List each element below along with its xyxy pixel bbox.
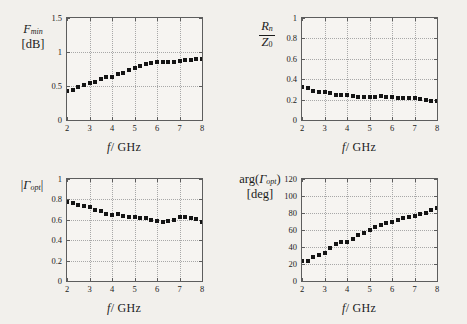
data-point [339,93,343,97]
axis-tick-y [67,18,70,19]
gridline-vertical [90,18,91,120]
axis-tick-x [325,18,326,21]
data-point [76,203,80,207]
axis-tick-label-y: 120 [275,174,297,184]
gridline-vertical [157,18,158,120]
axis-tick-label-y: 0.4 [40,235,62,245]
gridline-vertical [90,179,91,281]
data-point [384,95,388,99]
axis-tick-y [302,79,305,80]
axis-tick-y [199,52,202,53]
gridline-vertical [180,18,181,120]
axis-tick-y [67,179,70,180]
axis-tick-label-y: 1 [40,47,62,57]
axis-tick-x [112,278,113,281]
data-point [121,71,125,75]
axis-tick-y [434,196,437,197]
axis-tick-y [67,220,70,221]
axis-tick-x [90,117,91,120]
axis-tick-x [112,18,113,21]
gridline-vertical [112,18,113,120]
axis-tick-x [112,179,113,182]
gridline-horizontal [67,52,202,53]
axis-tick-y [302,179,305,180]
axis-tick-y [67,240,70,241]
data-point [144,62,148,66]
axis-tick-x [415,179,416,182]
subplot-gamma-arg-frame [301,178,438,282]
data-point [172,60,176,64]
data-point [93,208,97,212]
data-point [183,215,187,219]
axis-tick-y [199,18,202,19]
axis-tick-label-x: 8 [200,123,204,133]
data-point [138,216,142,220]
data-point [99,77,103,81]
data-point [149,61,153,65]
data-point [351,237,355,241]
axis-tick-label-x: 4 [110,123,114,133]
axis-tick-y [67,52,70,53]
gridline-horizontal [67,199,202,200]
axis-tick-label-y: 20 [275,259,297,269]
data-point [133,215,137,219]
axis-tick-y [302,264,305,265]
data-point [401,96,405,100]
gridline-horizontal [302,247,437,248]
axis-tick-label-x: 7 [412,284,416,294]
axis-tick-x [135,18,136,21]
axis-tick-label-x: 4 [345,284,349,294]
gridline-horizontal [67,220,202,221]
axis-tick-x [180,179,181,182]
axis-tick-label-x: 3 [322,123,326,133]
axis-tick-x [135,278,136,281]
axis-tick-label-x: 6 [390,123,394,133]
axis-tick-x [157,179,158,182]
data-point [424,98,428,102]
gridline-vertical [180,179,181,281]
axis-tick-y [434,213,437,214]
data-point [200,220,202,224]
axis-tick-x [112,117,113,120]
axis-tick-label-x: 5 [132,123,136,133]
axis-tick-label-x: 3 [87,284,91,294]
axis-tick-x [392,278,393,281]
data-point [429,99,433,103]
axis-tick-label-y: 60 [275,225,297,235]
axis-tick-label-y: 1.5 [40,13,62,23]
data-point [116,72,120,76]
axis-tick-x [415,18,416,21]
axis-tick-y [302,230,305,231]
axis-tick-label-x: 4 [345,123,349,133]
data-point [351,94,355,98]
data-point [368,95,372,99]
data-point [407,96,411,100]
data-point [161,220,165,224]
gridline-horizontal [67,261,202,262]
data-point [373,95,377,99]
axis-tick-x [347,117,348,120]
axis-tick-x [392,117,393,120]
axis-tick-x [347,18,348,21]
data-point [413,214,417,218]
axis-tick-label-x: 4 [110,284,114,294]
axis-tick-label-y: 80 [275,208,297,218]
data-point [99,209,103,213]
subplot-gamma-mag-xlabel: f/ GHz [107,301,141,316]
data-point [127,68,131,72]
data-point [401,216,405,220]
subplot-fmin-xlabel: f/ GHz [107,140,141,155]
data-point [166,219,170,223]
axis-tick-y [199,199,202,200]
data-point [189,216,193,220]
axis-tick-y [434,59,437,60]
axis-tick-label-y: 40 [275,242,297,252]
axis-tick-label-y: 0 [40,115,62,125]
data-point [88,205,92,209]
data-point [93,80,97,84]
data-point [390,220,394,224]
axis-tick-x [90,18,91,21]
subplot-fmin-plotarea [67,18,202,120]
data-point [161,60,165,64]
gridline-horizontal [302,38,437,39]
